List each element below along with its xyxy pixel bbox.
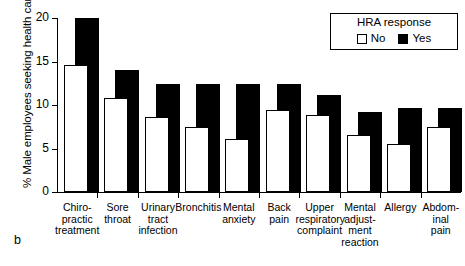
legend-item-no: No: [357, 33, 386, 45]
y-axis-line: [57, 18, 58, 192]
x-axis-tick: [380, 193, 381, 198]
legend-label-no: No: [371, 33, 386, 45]
x-axis-tick: [178, 193, 179, 198]
y-axis-tick: 20: [52, 18, 57, 19]
y-axis-tick-label: 10: [36, 98, 49, 110]
y-axis-tick: 5: [52, 149, 57, 150]
x-axis-tick: [219, 193, 220, 198]
black-square-icon: [398, 34, 408, 44]
x-axis-tick: [340, 193, 341, 198]
y-axis-tick-label: 15: [36, 55, 49, 67]
y-axis-tick-label: 0: [42, 185, 49, 197]
bar-no: [104, 98, 128, 192]
bar-no: [306, 115, 330, 192]
bar-no: [64, 65, 88, 192]
legend-entries: No Yes: [331, 33, 457, 45]
legend: HRA response No Yes: [330, 13, 458, 50]
x-axis-category-label: Abdom- inal pain: [417, 202, 465, 237]
bar-no: [266, 110, 290, 192]
bar-no: [387, 144, 411, 192]
x-axis-tick: [259, 193, 260, 198]
bar-no: [145, 117, 169, 192]
x-axis-tick: [97, 193, 98, 198]
panel-letter: b: [14, 234, 21, 247]
y-axis-tick: 10: [52, 105, 57, 106]
y-axis-tick: 15: [52, 62, 57, 63]
y-axis-tick-label: 5: [42, 142, 49, 154]
bar-no: [185, 127, 209, 192]
legend-title: HRA response: [331, 17, 457, 29]
legend-label-yes: Yes: [412, 33, 431, 45]
white-square-icon: [357, 34, 367, 44]
bar-no: [225, 139, 249, 192]
legend-item-yes: Yes: [398, 33, 431, 45]
y-axis-tick-label: 20: [36, 11, 49, 23]
x-axis-tick: [138, 193, 139, 198]
figure-panel-b: % Male employees seeking health care b 0…: [0, 0, 465, 266]
y-axis-tick: 0: [52, 192, 57, 193]
x-axis-tick: [299, 193, 300, 198]
bar-no: [427, 127, 451, 192]
x-axis-tick: [421, 193, 422, 198]
bar-no: [347, 135, 371, 192]
y-axis-title: % Male employees seeking health care: [22, 0, 34, 190]
